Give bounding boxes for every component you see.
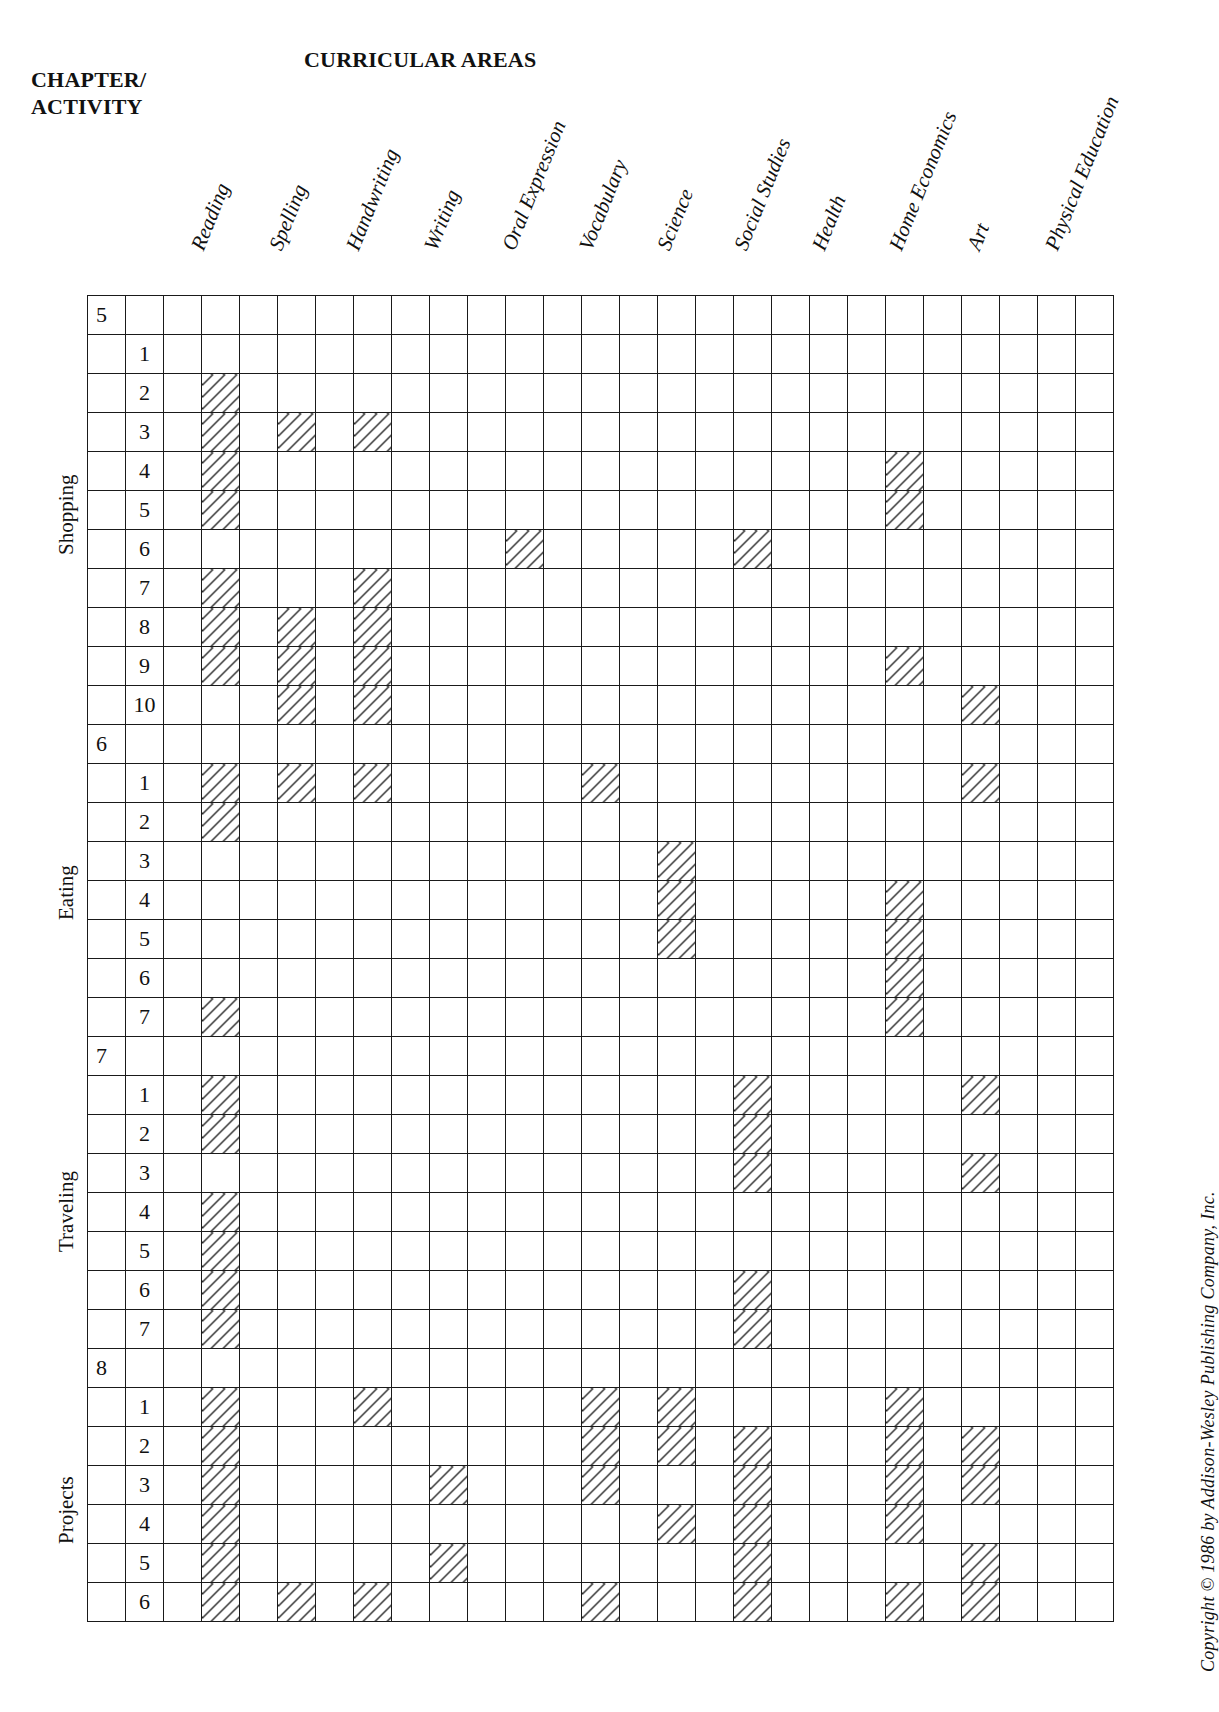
grid-cell [924, 1505, 962, 1544]
grid-cell [316, 725, 354, 764]
grid-cell [1076, 1232, 1114, 1271]
grid-cell [316, 335, 354, 374]
grid-cell [278, 374, 316, 413]
grid-cell [886, 608, 924, 647]
grid-cell [772, 764, 810, 803]
grid-cell [658, 1349, 696, 1388]
grid-cell [164, 959, 202, 998]
grid-cell [1000, 1388, 1038, 1427]
grid-cell [1076, 686, 1114, 725]
grid-cell [962, 647, 1000, 686]
chapter-name-label: Shopping [54, 474, 79, 555]
hatched-cell [734, 1076, 772, 1115]
grid-cell [506, 1466, 544, 1505]
grid-cell [810, 1037, 848, 1076]
grid-cell [468, 725, 506, 764]
grid-cell [430, 1310, 468, 1349]
grid-cell [886, 1271, 924, 1310]
grid-cell [810, 998, 848, 1037]
hatched-cell [658, 1388, 696, 1427]
grid-cell [430, 725, 468, 764]
grid-cell [658, 998, 696, 1037]
grid-cell [620, 1193, 658, 1232]
curriculum-grid: 51234567891061234567712345678123456 [87, 295, 1114, 1622]
grid-cell [696, 1466, 734, 1505]
grid-cell [810, 881, 848, 920]
grid-cell [962, 1388, 1000, 1427]
grid-cell [544, 1154, 582, 1193]
grid-cell [886, 569, 924, 608]
hatched-cell [734, 1583, 772, 1622]
copyright-notice: Copyright © 1986 by Addison-Wesley Publi… [1198, 1191, 1219, 1672]
grid-cell [240, 647, 278, 686]
grid-cell [88, 920, 126, 959]
grid-cell [810, 1466, 848, 1505]
grid-cell [810, 1544, 848, 1583]
grid-cell [240, 569, 278, 608]
grid-cell [582, 959, 620, 998]
grid-cell [164, 491, 202, 530]
hatched-cell [734, 1427, 772, 1466]
grid-cell [620, 842, 658, 881]
grid-cell [772, 608, 810, 647]
grid-cell [962, 842, 1000, 881]
grid-cell [278, 1349, 316, 1388]
activity-row: 6 [88, 959, 1114, 998]
grid-cell [924, 1466, 962, 1505]
hatched-cell [886, 920, 924, 959]
grid-cell [506, 569, 544, 608]
grid-cell [544, 920, 582, 959]
grid-cell [506, 413, 544, 452]
subject-label-science: Science [652, 185, 699, 254]
grid-cell [164, 764, 202, 803]
grid-cell [696, 1427, 734, 1466]
grid-cell [658, 1583, 696, 1622]
grid-cell [620, 647, 658, 686]
grid-cell [544, 1076, 582, 1115]
grid-cell [658, 1115, 696, 1154]
grid-cell [316, 686, 354, 725]
activity-row: 3 [88, 1466, 1114, 1505]
grid-cell [848, 1076, 886, 1115]
grid-cell [620, 335, 658, 374]
grid-cell [1038, 1388, 1076, 1427]
grid-cell [88, 1271, 126, 1310]
grid-cell [582, 296, 620, 335]
grid-cell [392, 1076, 430, 1115]
grid-cell [544, 1193, 582, 1232]
activity-row: 2 [88, 374, 1114, 413]
hatched-cell [202, 452, 240, 491]
grid-cell [506, 1310, 544, 1349]
hatched-cell [202, 1505, 240, 1544]
grid-cell [1000, 725, 1038, 764]
grid-cell [278, 1544, 316, 1583]
grid-cell [316, 998, 354, 1037]
grid-cell [696, 920, 734, 959]
grid-cell [506, 998, 544, 1037]
grid-cell [1076, 1583, 1114, 1622]
activity-row: 7 [88, 569, 1114, 608]
grid-cell [924, 1310, 962, 1349]
grid-cell [354, 530, 392, 569]
grid-cell [924, 803, 962, 842]
grid-cell [164, 1193, 202, 1232]
grid-cell [240, 1310, 278, 1349]
grid-cell [734, 296, 772, 335]
grid-cell [848, 764, 886, 803]
grid-cell [848, 569, 886, 608]
grid-cell [430, 1427, 468, 1466]
grid-cell [392, 647, 430, 686]
grid-cell [278, 920, 316, 959]
grid-cell [88, 764, 126, 803]
grid-cell [354, 491, 392, 530]
grid-cell [354, 725, 392, 764]
grid-cell [620, 608, 658, 647]
subject-label-home-economics: Home Economics [884, 108, 962, 254]
grid-cell [582, 491, 620, 530]
grid-cell [848, 1427, 886, 1466]
grid-cell [582, 803, 620, 842]
grid-cell [772, 296, 810, 335]
activity-row: 3 [88, 413, 1114, 452]
grid-cell [1076, 1427, 1114, 1466]
grid-cell [1076, 842, 1114, 881]
